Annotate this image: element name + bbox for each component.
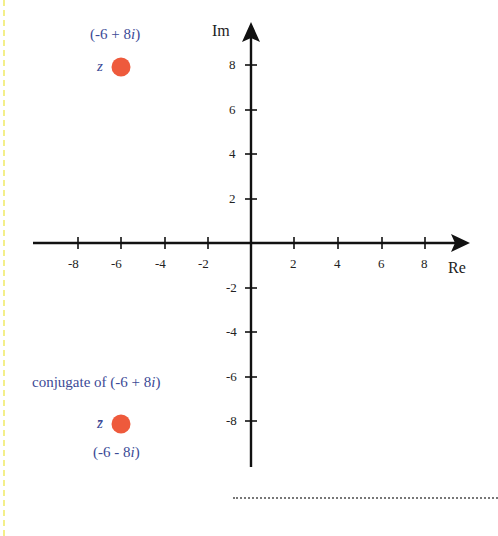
y-tick-label: -2	[226, 280, 237, 296]
x-tick-label: -8	[68, 256, 79, 272]
imag-axis-label: Im	[212, 22, 230, 40]
x-tick-label: -2	[198, 256, 209, 272]
x-tick-label: -4	[155, 256, 166, 272]
conjugate-caption: conjugate of (-6 + 8i)	[32, 374, 160, 391]
point-z	[112, 58, 131, 77]
point-z-symbol: z	[97, 58, 103, 75]
y-tick-label: 4	[229, 146, 236, 162]
y-tick-label: -6	[226, 369, 237, 385]
x-tick-label: 2	[290, 256, 297, 272]
point-z-conjugate-symbol: z̄	[97, 415, 103, 432]
x-tick-label: 8	[421, 256, 428, 272]
y-tick-label: 6	[229, 102, 236, 118]
real-axis-label: Re	[448, 259, 466, 277]
y-tick-label: -8	[226, 413, 237, 429]
y-tick-label: -4	[226, 324, 237, 340]
point-z-conjugate-value: (-6 - 8i)	[93, 444, 140, 461]
point-z-conjugate	[112, 415, 131, 434]
x-tick-label: 6	[378, 256, 385, 272]
y-tick-label: 2	[229, 191, 236, 207]
y-tick-label: 8	[229, 57, 236, 73]
x-tick-label: 4	[334, 256, 341, 272]
dotted-divider	[233, 497, 498, 499]
x-tick-label: -6	[111, 256, 122, 272]
point-z-value: (-6 + 8i)	[90, 26, 140, 43]
